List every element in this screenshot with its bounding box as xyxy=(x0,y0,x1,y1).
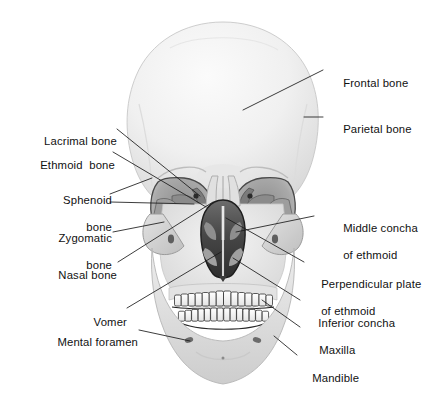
label-perpendicular-plate-line1: Perpendicular plate xyxy=(321,278,421,290)
label-ethmoid-bone: Ethmoid bone xyxy=(27,146,115,186)
label-middle-concha-line2: of ethmoid xyxy=(343,249,397,261)
label-frontal-bone-text: Frontal bone xyxy=(343,77,408,89)
label-zygomatic-bone-line1: Zygomatic xyxy=(59,232,112,244)
label-sphenoid-bone-line1: Sphenoid xyxy=(63,194,112,206)
label-parietal-bone: Parietal bone xyxy=(330,110,412,150)
label-mandible: Mandible xyxy=(299,359,359,399)
leader-mandible xyxy=(274,336,297,355)
skull-diagram: Lacrimal bone Ethmoid bone Sphenoid bone… xyxy=(0,0,428,403)
label-mental-foramen-text: Mental foramen xyxy=(57,336,138,348)
label-middle-concha-line1: Middle concha xyxy=(343,222,418,234)
upper-teeth-row xyxy=(175,291,273,306)
label-mandible-text: Mandible xyxy=(312,372,359,384)
label-parietal-bone-text: Parietal bone xyxy=(343,123,412,135)
orbit-right-optic-foramen xyxy=(247,193,252,198)
label-mental-foramen: Mental foramen xyxy=(44,323,138,363)
label-frontal-bone: Frontal bone xyxy=(330,64,408,104)
infraorbital-foramen-right xyxy=(272,235,278,244)
mandibular-gumline xyxy=(176,321,270,329)
infraorbital-foramen-left xyxy=(168,235,174,244)
label-maxilla-text: Maxilla xyxy=(319,344,355,356)
label-nasal-bone-text: Nasal bone xyxy=(58,269,117,281)
label-ethmoid-bone-text: Ethmoid bone xyxy=(40,159,115,171)
label-inferior-concha-text: Inferior concha xyxy=(318,317,395,329)
mental-symphysis-pit xyxy=(222,357,225,360)
label-nasal-bone: Nasal bone xyxy=(45,256,117,296)
lower-teeth-row xyxy=(178,308,268,321)
